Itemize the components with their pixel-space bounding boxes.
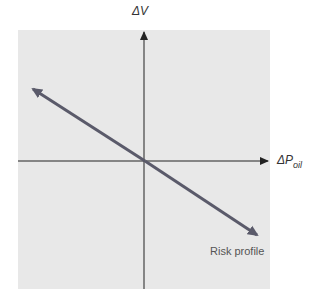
risk-profile-label: Risk profile (210, 245, 264, 257)
x-axis-label: ΔPoil (277, 153, 302, 170)
x-axis-label-main: ΔP (277, 153, 293, 167)
risk-profile-diagram (0, 0, 319, 301)
x-axis-label-subscript: oil (293, 160, 302, 170)
y-axis-label: ΔV (132, 4, 148, 18)
risk-profile-line (33, 89, 257, 235)
